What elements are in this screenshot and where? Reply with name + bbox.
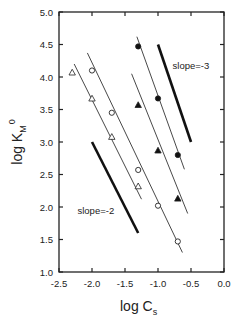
x-axis-ticks: -2.5-2.0-1.5-1.0-0.50.0 <box>51 12 231 289</box>
y-tick-label: 1.5 <box>40 234 53 245</box>
y-tick-label: 3.0 <box>40 137 53 148</box>
x-axis-title: log Cs <box>120 298 158 317</box>
data-point-open-triangle <box>69 69 75 75</box>
plot-frame <box>59 12 224 272</box>
y-tick-label: 5.0 <box>40 7 53 18</box>
data-point-filled-circle <box>136 44 141 49</box>
chart: -2.5-2.0-1.5-1.0-0.50.0 1.01.52.02.53.03… <box>0 0 237 329</box>
data-point-open-circle <box>136 167 141 172</box>
reference-line <box>92 142 138 233</box>
x-tick-label: 0.0 <box>217 278 230 289</box>
y-axis-title: log KM0 <box>7 119 28 164</box>
slope-label: slope=-3 <box>173 60 210 71</box>
data-point-filled-triangle <box>135 102 141 108</box>
data-point-open-triangle <box>135 183 141 189</box>
data-point-filled-triangle <box>175 195 181 201</box>
y-tick-label: 1.0 <box>40 267 53 278</box>
data-point-filled-triangle <box>155 147 161 153</box>
y-axis-ticks: 1.01.52.02.53.03.54.04.55.0 <box>40 7 224 278</box>
y-tick-label: 4.5 <box>40 39 53 50</box>
svg-text:log KM0: log KM0 <box>7 119 28 164</box>
y-tick-label: 4.0 <box>40 72 53 83</box>
x-tick-label: -2.0 <box>84 278 100 289</box>
data-point-open-circle <box>175 239 180 244</box>
y-tick-label: 2.5 <box>40 169 53 180</box>
x-tick-label: -2.5 <box>51 278 67 289</box>
fit-line <box>132 74 188 214</box>
data-point-open-circle <box>155 203 160 208</box>
plot-border <box>59 12 224 272</box>
y-tick-label: 3.5 <box>40 104 53 115</box>
fit-line <box>74 64 141 199</box>
x-tick-label: -1.5 <box>117 278 133 289</box>
data-point-filled-circle <box>175 152 180 157</box>
y-tick-label: 2.0 <box>40 202 53 213</box>
slope-label: slope=-2 <box>77 205 114 216</box>
data-point-filled-circle <box>155 96 160 101</box>
reference-line <box>158 45 191 143</box>
x-tick-label: -1.0 <box>150 278 166 289</box>
x-tick-label: -0.5 <box>183 278 199 289</box>
data-point-open-circle <box>89 68 94 73</box>
data-point-open-circle <box>109 110 114 115</box>
